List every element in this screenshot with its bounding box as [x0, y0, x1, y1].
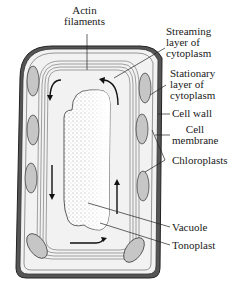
- label-tonoplast: Tonoplast: [172, 240, 215, 251]
- label-streaming-layer: Streaming layer of cytoplasm: [166, 26, 211, 59]
- label-stationary-layer: Stationary layer of cytoplasm: [170, 68, 215, 101]
- label-cell-wall: Cell wall: [172, 108, 212, 119]
- label-cell-membrane: Cell membrane: [172, 124, 218, 146]
- label-vacuole: Vacuole: [172, 222, 207, 233]
- label-actin-filaments: Actin filaments: [64, 5, 105, 27]
- vacuole: [64, 90, 110, 230]
- label-chloroplasts: Chloroplasts: [172, 155, 228, 166]
